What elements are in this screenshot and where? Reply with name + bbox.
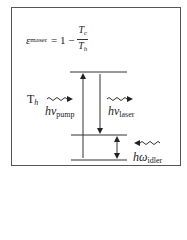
idler-subscript: idler bbox=[147, 156, 162, 165]
pump-symbol: hν bbox=[45, 104, 56, 118]
laser-label: hνlaser bbox=[108, 104, 134, 119]
pump-label: hνpump bbox=[45, 104, 75, 119]
hot-bath-subscript: h bbox=[34, 98, 38, 107]
laser-wave-icon bbox=[107, 98, 127, 101]
pump-subscript: pump bbox=[56, 110, 74, 119]
idler-symbol: hω bbox=[133, 150, 147, 164]
pump-wave-icon bbox=[47, 98, 67, 101]
laser-subscript: laser bbox=[119, 110, 134, 119]
laser-symbol: hν bbox=[108, 104, 119, 118]
idler-label: hωidler bbox=[133, 150, 162, 165]
hot-bath-label: Th bbox=[27, 92, 38, 107]
idler-wave-icon bbox=[140, 142, 160, 145]
